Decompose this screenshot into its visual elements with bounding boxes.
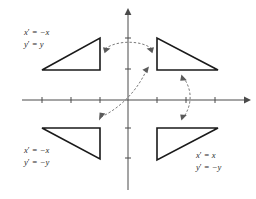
label-quadrant-4-line-2-body: = −y [202, 162, 222, 172]
label-quadrant-2-line-2-body: = y [30, 39, 44, 49]
arrow-reflect-y-axis-head-right [147, 47, 154, 53]
label-quadrant-2: x′ = −x y′ = y [24, 27, 49, 50]
arrow-reflect-x-axis-path [183, 77, 190, 118]
arrow-reflect-x-axis [180, 75, 190, 121]
label-quadrant-3-line-1: x′ = −x [24, 145, 49, 157]
arrow-reflect-y-axis-head-left [103, 47, 110, 53]
triangle-quadrant-1 [157, 38, 218, 70]
label-quadrant-4-line-1: x′ = x [196, 150, 221, 162]
label-quadrant-4-line-2: y′ = −y [196, 162, 221, 174]
label-quadrant-4: x′ = x y′ = −y [196, 150, 221, 173]
label-quadrant-3-line-1-body: = −x [30, 145, 50, 155]
label-quadrant-3-line-2-body: = −y [30, 157, 50, 167]
triangle-quadrant-3 [42, 128, 100, 159]
label-quadrant-2-line-2: y′ = y [24, 39, 49, 51]
triangle-quadrant-2 [42, 38, 100, 70]
label-quadrant-3-line-2: y′ = −y [24, 157, 49, 169]
arrow-reflect-origin [99, 66, 149, 120]
mapping-arrows-group [99, 42, 190, 120]
label-quadrant-2-line-1-body: = −x [30, 27, 50, 37]
label-quadrant-3: x′ = −x y′ = −y [24, 145, 49, 168]
label-quadrant-2-line-1: x′ = −x [24, 27, 49, 39]
arrow-reflect-x-axis-head-bottom [180, 114, 187, 120]
transformation-diagram: x′ = −x y′ = y x′ = −x y′ = −y x′ = x y′… [0, 0, 256, 199]
arrow-reflect-origin-path [101, 69, 147, 117]
arrow-reflect-origin-head-lower-left [99, 112, 105, 120]
x-axis-arrowhead [244, 97, 251, 104]
arrow-reflect-x-axis-head-top [180, 75, 187, 81]
y-axis-arrowhead [125, 8, 132, 15]
shapes-group [42, 38, 218, 160]
label-quadrant-4-line-1-body: = x [202, 150, 216, 160]
